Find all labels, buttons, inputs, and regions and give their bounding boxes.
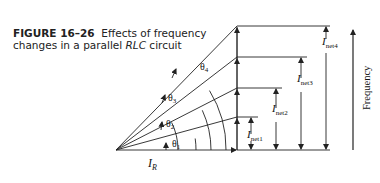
inet4-label: Inet4 (321, 35, 338, 50)
theta3-label: θ3 (168, 92, 177, 105)
inet2-label: Inet2 (271, 102, 288, 117)
theta1-label: θ1 (172, 138, 181, 151)
theta4-label: θ4 (200, 61, 209, 74)
frequency-label: Frequency (361, 65, 372, 110)
inet3-label: Inet3 (296, 72, 313, 87)
inet1-label: Inet1 (246, 128, 263, 143)
phasor-diagram: IR θ1 θ2 θ3 θ4 Inet1 Inet2 Inet3 Inet4 F… (0, 0, 380, 183)
ir-label: IR (147, 156, 157, 172)
resultant-4 (116, 26, 237, 150)
theta2-label: θ2 (166, 118, 175, 131)
